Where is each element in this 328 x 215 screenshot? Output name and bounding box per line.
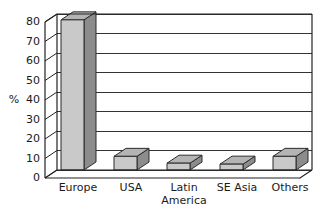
y-tick-label-70: 70 <box>26 35 40 48</box>
bar-chart: 0 10 20 30 40 50 60 70 80 % Europe USA L… <box>0 0 328 215</box>
x-label-europe: Europe <box>59 181 98 194</box>
y-tick-label-0: 0 <box>33 171 40 184</box>
bar-others-front <box>273 156 296 170</box>
y-tick-label-40: 40 <box>26 93 40 106</box>
x-label-se-asia: SE Asia <box>217 181 257 194</box>
y-tick-label-30: 30 <box>26 113 40 126</box>
x-axis-labels: Europe USA Latin America SE Asia Others <box>59 181 309 207</box>
bar-europe <box>61 12 96 170</box>
bar-europe-front <box>61 20 84 170</box>
x-label-latin-america-line2: America <box>161 194 206 207</box>
y-tick-label-50: 50 <box>26 74 40 87</box>
y-tick-label-10: 10 <box>26 152 40 165</box>
y-tick-label-20: 20 <box>26 132 40 145</box>
bar-usa-front <box>114 156 137 170</box>
x-label-latin-america-line1: Latin <box>170 181 197 194</box>
x-label-others: Others <box>272 181 309 194</box>
bar-se-asia-front <box>220 164 243 170</box>
chart-canvas: 0 10 20 30 40 50 60 70 80 % Europe USA L… <box>0 0 328 215</box>
y-tick-label-60: 60 <box>26 54 40 67</box>
floor <box>45 170 312 178</box>
y-axis-labels: 0 10 20 30 40 50 60 70 80 <box>26 15 40 184</box>
y-tick-label-80: 80 <box>26 15 40 28</box>
bar-latin-america-front <box>167 163 190 170</box>
y-axis-unit-label: % <box>9 93 19 106</box>
x-label-usa: USA <box>120 181 143 194</box>
bar-europe-side <box>84 12 96 170</box>
